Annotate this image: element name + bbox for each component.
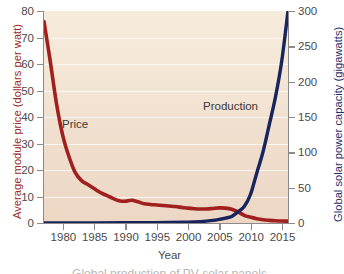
x-tick [219,224,220,230]
x-axis-spine [43,223,289,224]
y-tick-right [289,46,295,47]
y-tick-label-left: 0 [28,218,34,230]
x-tick [282,224,283,230]
y-tick-right [289,82,295,83]
x-tick-label: 1990 [113,232,139,244]
x-tick [63,224,64,230]
x-tick-label: 1985 [82,232,108,244]
production-curve-path-main [44,11,288,223]
y-tick-right [289,152,295,153]
x-tick [188,224,189,230]
y-tick-left [37,223,43,224]
y-tick-left [37,170,43,171]
y-tick-label-right: 0 [298,218,304,230]
series-label-price: Price [62,119,88,131]
y-tick-left [37,64,43,65]
y-tick-label-right: 300 [298,6,317,18]
y-tick-left [37,91,43,92]
x-tick-label: 1995 [145,232,171,244]
y-tick-label-left: 80 [21,6,34,18]
x-tick [94,224,95,230]
x-tick-label: 2010 [238,232,264,244]
y-tick-right [289,11,295,12]
y-tick-left [37,117,43,118]
figure-caption: Global production of PV solar panels [0,268,339,274]
y-axis-left-title: Average module price (dollars per watt) [12,24,23,219]
plot-area [44,11,288,223]
y-tick-right [289,117,295,118]
x-tick-label: 2005 [207,232,233,244]
series-curves [44,11,288,223]
y-tick-left [37,11,43,12]
x-axis-title: Year [0,250,339,262]
y-tick-label-right: 200 [298,77,317,89]
x-tick [157,224,158,230]
x-tick [251,224,252,230]
x-tick-label: 1980 [51,232,77,244]
y-tick-label-right: 100 [298,147,317,159]
y-tick-left [37,197,43,198]
y-tick-label-right: 250 [298,41,317,53]
x-tick-label: 2015 [270,232,296,244]
y-tick-right [289,188,295,189]
y-axis-right-title: Global solar power capacity (gigawatts) [333,27,344,222]
y-tick-left [37,144,43,145]
x-tick-label: 2000 [176,232,202,244]
series-label-production: Production [203,101,258,113]
y-tick-right [289,223,295,224]
y-tick-label-right: 50 [298,183,311,195]
y-tick-left [37,38,43,39]
y-axis-left-spine [43,11,44,224]
x-tick [125,224,126,230]
y-tick-label-right: 150 [298,112,317,124]
